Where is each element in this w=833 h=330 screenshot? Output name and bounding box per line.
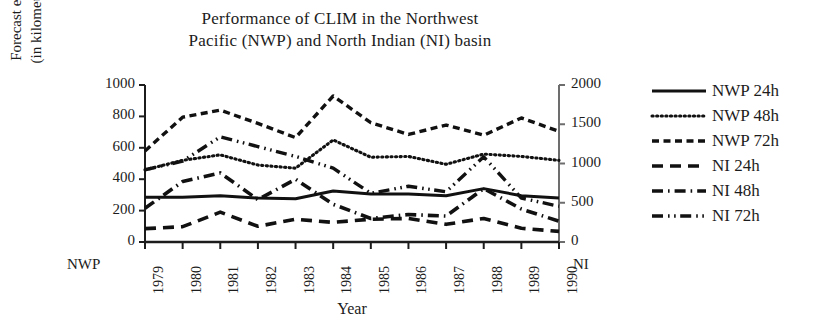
x-axis-tick-label: 1988	[490, 266, 506, 294]
legend-line-swatch	[650, 109, 708, 123]
legend-item[interactable]: NI 48h	[650, 178, 833, 203]
y-axis-right-tick-label: 2000	[571, 75, 631, 92]
y-axis-right-tick-label: 500	[571, 193, 631, 210]
series-line	[145, 212, 559, 231]
legend-line-swatch	[650, 209, 708, 223]
y-axis-left-tick-label: 600	[67, 138, 135, 155]
x-axis-tick-label: 1985	[377, 266, 393, 294]
legend-item[interactable]: NWP 72h	[650, 128, 833, 153]
x-axis-tick-label: 1980	[189, 266, 205, 294]
y-axis-right-tick-label: 0	[571, 232, 631, 249]
legend-item[interactable]: NI 24h	[650, 153, 833, 178]
x-axis-tick-label: 1989	[527, 266, 543, 294]
right-axis-group-label: NI	[573, 256, 589, 273]
legend-item[interactable]: NWP 48h	[650, 103, 833, 128]
legend-line-swatch	[650, 84, 708, 98]
legend-item[interactable]: NWP 24h	[650, 78, 833, 103]
x-axis-tick-label: 1979	[151, 266, 167, 294]
legend-item-label: NI 24h	[708, 156, 760, 176]
y-axis-left-tick-label: 200	[67, 201, 135, 218]
legend-line-swatch	[650, 184, 708, 198]
legend-item-label: NI 48h	[708, 181, 760, 201]
y-axis-left-tick-label: 400	[67, 169, 135, 186]
x-axis-tick-label: 1987	[452, 266, 468, 294]
x-axis-tick-label: 1983	[302, 266, 318, 294]
x-axis-title: Year	[145, 300, 559, 318]
y-axis-right-tick-label: 1500	[571, 114, 631, 131]
chart-figure: Performance of CLIM in the Northwest Pac…	[0, 0, 833, 330]
x-axis-tick-label: 1984	[339, 266, 355, 294]
series-lines	[145, 96, 559, 231]
y-axis-left-tick-label: 800	[67, 106, 135, 123]
chart-legend: NWP 24hNWP 48hNWP 72hNI 24hNI 48hNI 72h	[650, 78, 833, 228]
legend-item-label: NWP 24h	[708, 81, 779, 101]
legend-line-swatch	[650, 159, 708, 173]
legend-item-label: NWP 72h	[708, 131, 779, 151]
legend-item-label: NI 72h	[708, 206, 760, 226]
legend-item[interactable]: NI 72h	[650, 203, 833, 228]
y-axis-left-tick-label: 0	[67, 232, 135, 249]
x-axis-tick-label: 1981	[226, 266, 242, 294]
y-axis-right-tick-label: 1000	[571, 154, 631, 171]
x-axis-tick-label: 1982	[264, 266, 280, 294]
series-line	[145, 140, 559, 170]
x-axis-tick-label: 1986	[414, 266, 430, 294]
series-line	[145, 189, 559, 199]
legend-line-swatch	[650, 134, 708, 148]
left-axis-group-label: NWP	[67, 256, 100, 273]
legend-item-label: NWP 48h	[708, 106, 779, 126]
series-line	[145, 96, 559, 151]
y-axis-left-tick-label: 1000	[67, 75, 135, 92]
